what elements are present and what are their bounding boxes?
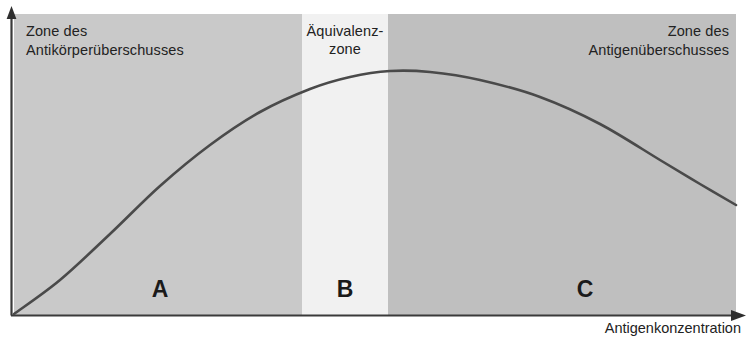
- precipitation-curve-figure: Zone des Antikörperüberschusses Äquivale…: [0, 0, 747, 341]
- zone-region-b: [302, 14, 388, 315]
- region-letter-b: B: [315, 278, 375, 301]
- region-letter-c: C: [555, 278, 615, 301]
- x-axis-label: Antigenkonzentration: [605, 319, 741, 337]
- zone-label-equivalence: Äquivalenz- zone: [302, 22, 388, 58]
- zone-label-antigen-excess: Zone des Antigenüberschusses: [588, 22, 729, 60]
- zone-label-antibody-excess: Zone des Antikörperüberschusses: [26, 22, 184, 60]
- region-letter-a: A: [130, 278, 190, 301]
